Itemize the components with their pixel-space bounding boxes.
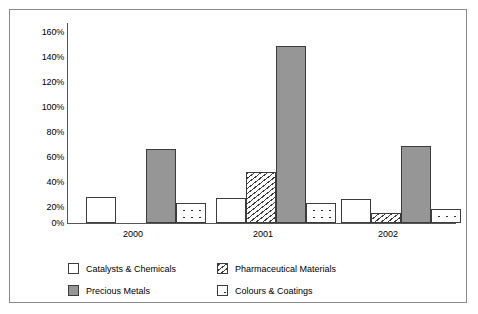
y-tick-label: 140% [18,53,64,62]
legend-swatch-solid-white-icon [68,263,79,274]
bar-group-2001 [198,23,328,223]
legend-item-precious-metals: Precious Metals [68,285,150,296]
bar [146,149,176,223]
x-tick-label: 2001 [198,229,328,239]
legend-item-catalysts-chemicals: Catalysts & Chemicals [68,263,176,274]
y-tick-label: 40% [18,178,64,187]
y-tick-label: 80% [18,128,64,137]
x-axis-line [67,223,456,224]
bar [371,213,401,223]
bar [276,46,306,224]
bar-group-2000 [68,23,198,223]
bar [246,172,276,223]
chart-frame: 160% 140% 120% 100% 80% 60% 40% 20% 0% 2… [9,9,467,303]
bar [341,199,371,223]
y-tick-label: 60% [18,153,64,162]
y-tick-label: 120% [18,78,64,87]
y-tick-label: 160% [18,28,64,37]
y-axis: 160% 140% 120% 100% 80% 60% 40% 20% 0% [10,10,64,255]
legend-label: Catalysts & Chemicals [86,264,176,274]
legend-item-pharmaceutical-materials: Pharmaceutical Materials [217,263,336,274]
x-tick-label: 2002 [323,229,453,239]
legend-swatch-gray-icon [68,285,79,296]
plot-area: 160% 140% 120% 100% 80% 60% 40% 20% 0% 2… [10,10,468,255]
legend-swatch-hatch-icon [217,263,228,274]
legend-item-colours-coatings: Colours & Coatings [217,285,313,296]
legend-label: Colours & Coatings [235,286,313,296]
bars-layer [68,23,456,223]
legend-label: Precious Metals [86,286,150,296]
legend-label: Pharmaceutical Materials [235,264,336,274]
bar [401,146,431,224]
x-tick-label: 2000 [68,229,198,239]
bar [86,197,116,223]
bar [431,209,461,223]
chart-legend: Catalysts & Chemicals Pharmaceutical Mat… [10,256,468,303]
bar-group-2002 [323,23,453,223]
bar [216,198,246,223]
y-tick-label: 0% [18,219,64,228]
legend-swatch-dots-icon [217,285,228,296]
y-tick-label: 20% [18,203,64,212]
y-tick-label: 100% [18,103,64,112]
